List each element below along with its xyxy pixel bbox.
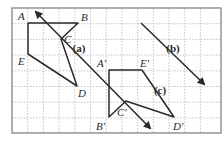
part-label: (a)	[73, 42, 86, 55]
part-label: (b)	[166, 42, 180, 55]
vertex-label: B	[81, 11, 88, 23]
vertex-label: D	[77, 87, 86, 99]
part-label: (c)	[154, 84, 167, 97]
vertex-label: E′	[139, 57, 150, 69]
vertex-label: D′	[172, 120, 184, 132]
vertex-label: A′	[96, 57, 107, 69]
vertex-label: C	[64, 33, 72, 45]
shapes	[28, 12, 204, 128]
vertex-label: A	[17, 10, 25, 22]
vertex-label: B′	[96, 120, 106, 132]
vertex-label: E	[17, 55, 25, 67]
vertex-label: C′	[117, 106, 127, 118]
reflection-diagram: ABCDEA′E′D′C′B′(a)(b)(c)	[0, 0, 224, 143]
